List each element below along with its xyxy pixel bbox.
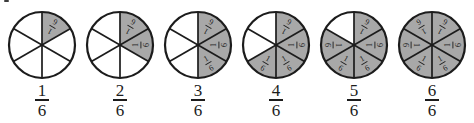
fraction-numerator: 4 — [272, 83, 281, 98]
fraction-numerator: 5 — [350, 83, 359, 98]
fraction-denominator: 6 — [428, 103, 437, 118]
fraction-circle-figure: 161616 3 6 — [159, 10, 237, 118]
stray-mark — [4, 0, 9, 2]
fraction-circle-figure: 1616 2 6 — [81, 10, 159, 118]
fraction-numerator: 3 — [194, 83, 203, 98]
svg-text:6: 6 — [298, 43, 307, 47]
fraction-label: 5 6 — [347, 83, 361, 118]
fraction-circle-figure: 16 1 6 — [3, 10, 81, 118]
svg-text:6: 6 — [401, 43, 410, 47]
svg-text:1: 1 — [365, 43, 374, 47]
fraction-denominator: 6 — [116, 103, 125, 118]
fraction-numerator: 2 — [116, 83, 125, 98]
svg-text:1: 1 — [443, 43, 452, 47]
fraction-label: 2 6 — [113, 83, 127, 118]
fraction-circle: 16 — [7, 10, 77, 80]
fraction-circle: 1616 — [85, 10, 155, 80]
svg-text:6: 6 — [142, 43, 151, 47]
fraction-label: 3 6 — [191, 83, 205, 118]
fraction-denominator: 6 — [194, 103, 203, 118]
fraction-denominator: 6 — [350, 103, 359, 118]
svg-text:1: 1 — [209, 43, 218, 47]
fraction-circle-figure: 1616161616 5 6 — [315, 10, 393, 118]
fraction-label: 1 6 — [35, 83, 49, 118]
fraction-circle-figure: 16161616 4 6 — [237, 10, 315, 118]
svg-text:6: 6 — [220, 43, 229, 47]
svg-text:1: 1 — [334, 43, 343, 47]
fraction-circles-diagram: 16 1 6 1616 2 6 161616 3 6 16161616 4 6 — [0, 0, 474, 123]
svg-text:6: 6 — [376, 43, 385, 47]
fraction-circle-figure: 161616161616 6 6 — [393, 10, 471, 118]
fraction-circle: 161616161616 — [397, 10, 467, 80]
svg-text:1: 1 — [131, 43, 140, 47]
fraction-label: 6 6 — [425, 83, 439, 118]
svg-text:6: 6 — [323, 43, 332, 47]
fraction-numerator: 1 — [38, 83, 47, 98]
fraction-label: 4 6 — [269, 83, 283, 118]
fraction-circle: 1616161616 — [319, 10, 389, 80]
fraction-numerator: 6 — [428, 83, 437, 98]
fraction-circle: 16161616 — [241, 10, 311, 80]
svg-text:1: 1 — [287, 43, 296, 47]
figures-row: 16 1 6 1616 2 6 161616 3 6 16161616 4 6 — [0, 0, 474, 118]
svg-text:6: 6 — [454, 43, 463, 47]
fraction-denominator: 6 — [272, 103, 281, 118]
svg-text:1: 1 — [412, 43, 421, 47]
fraction-circle: 161616 — [163, 10, 233, 80]
fraction-denominator: 6 — [38, 103, 47, 118]
